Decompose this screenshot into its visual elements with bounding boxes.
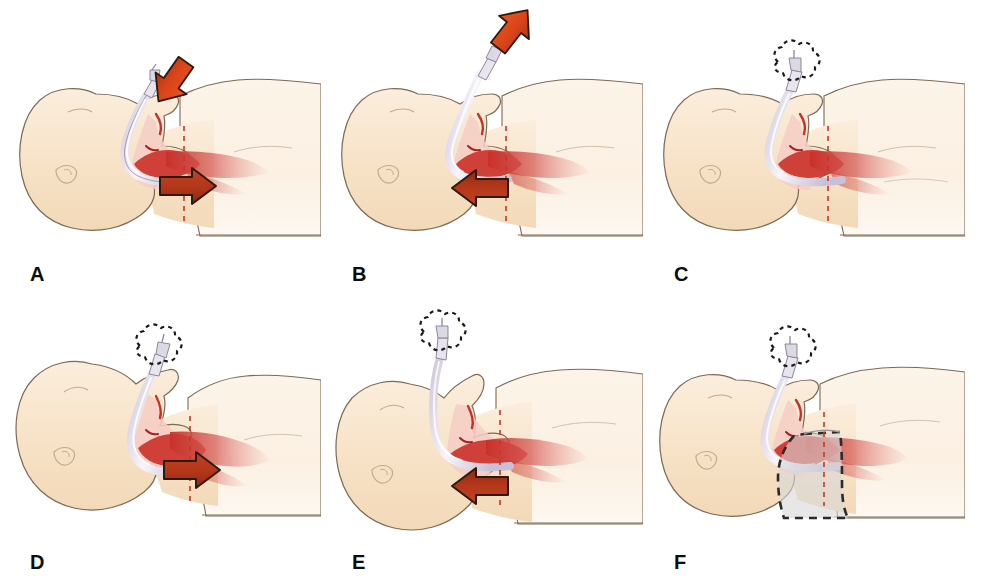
tube-connector	[436, 318, 448, 360]
panel-label-e: E	[352, 552, 365, 572]
panel-b: B	[322, 0, 643, 288]
panel-label-a: A	[30, 264, 44, 284]
panel-label-d: D	[30, 552, 44, 572]
figure-panel-grid: A	[0, 0, 1003, 576]
panel-e: E	[322, 288, 643, 576]
tube-connector	[782, 336, 798, 378]
panel-f: F	[644, 288, 965, 576]
panel-d: D	[0, 288, 321, 576]
panel-label-f: F	[674, 552, 686, 572]
panel-d-illustration	[0, 288, 321, 576]
panel-f-illustration	[644, 288, 965, 576]
panel-a: A	[0, 0, 321, 288]
panel-e-illustration	[322, 288, 643, 576]
panel-b-illustration	[322, 0, 643, 288]
panel-label-c: C	[674, 264, 688, 284]
panel-a-illustration	[0, 0, 321, 288]
panel-c-illustration	[644, 0, 965, 288]
tube-connector	[786, 50, 802, 92]
panel-c: C	[644, 0, 965, 288]
cervical-collar	[778, 430, 848, 518]
panel-label-b: B	[352, 264, 366, 284]
tube-connector	[478, 46, 502, 80]
